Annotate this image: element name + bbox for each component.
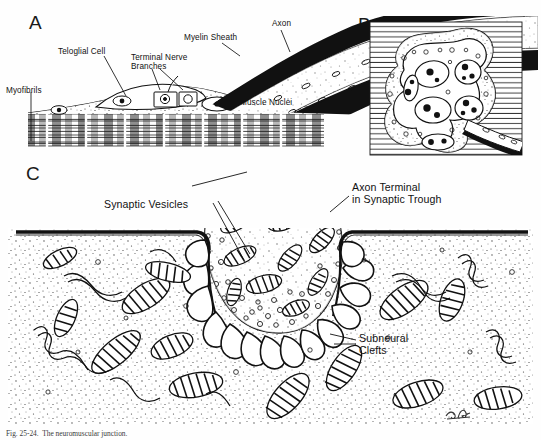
label-axon-terminal-in-synaptic-trough: Axon Terminal in Synaptic Trough [352,182,442,206]
terminal-lobes [402,58,483,150]
synaptic-vesicles-group [206,177,343,327]
label-terminal-nerve-branches: Terminal Nerve Branches [131,53,187,71]
neuromuscular-junction-figure: A B C [0,0,541,440]
label-myofibrils: Myofibrils [6,86,42,95]
sarcoplasm-vesicles [46,248,515,394]
subneural-clefts-group [184,240,374,369]
postsynaptic-membrane-right [340,232,528,250]
label-muscle-nuclei: Muscle Nuclei [240,98,292,107]
panel-c-artwork [8,165,533,426]
label-synaptic-vesicles: Synaptic Vesicles [104,199,188,211]
myofibril-band [28,113,324,147]
sarcoplasm-background [8,228,533,424]
sarcoplasmic-reticulum [34,250,516,406]
teloglial-cell-body [96,84,206,109]
myelinated-axon [212,0,538,162]
axon-terminal-branches [394,39,487,145]
panel-letter-c: C [26,163,40,185]
label-axon: Axon [272,19,291,28]
teloglial-nucleus [113,96,131,106]
label-myelin-sheath: Myelin Sheath [184,33,237,42]
incoming-nerve-axoplasm [464,120,524,152]
teloglial-sheath-outline [385,28,495,152]
figure-artwork [0,0,541,440]
terminal-nerve-branches-detail [154,76,197,107]
label-subneural-clefts: Subneural Clefts [359,333,408,357]
terminal-mitochondria [217,173,338,319]
panel-b-frame [370,22,522,155]
panel-b-artwork [370,22,526,158]
postsynaptic-membrane-left [16,232,209,250]
panel-b-nuclei [405,64,477,145]
panel-b-vesicles [388,48,488,137]
incoming-nerve-myelin [462,124,526,158]
panel-letter-b: B [358,14,371,36]
axoplasm [222,16,538,140]
panel-c-leader-lines [192,172,356,344]
sarcoplasmic-mitochondria [40,243,523,426]
panel-letter-a: A [29,12,42,34]
artist-signature [446,410,470,419]
label-teloglial-cell: Teloglial Cell [58,47,105,56]
axon-terminal-body [205,172,342,333]
synaptic-trough-wall-left [209,250,216,316]
figure-caption: Fig. 25-24. The neuromuscular junction. [6,429,127,438]
myelin-sheath-upper [212,0,538,112]
synaptic-trough-wall-right [333,250,340,316]
